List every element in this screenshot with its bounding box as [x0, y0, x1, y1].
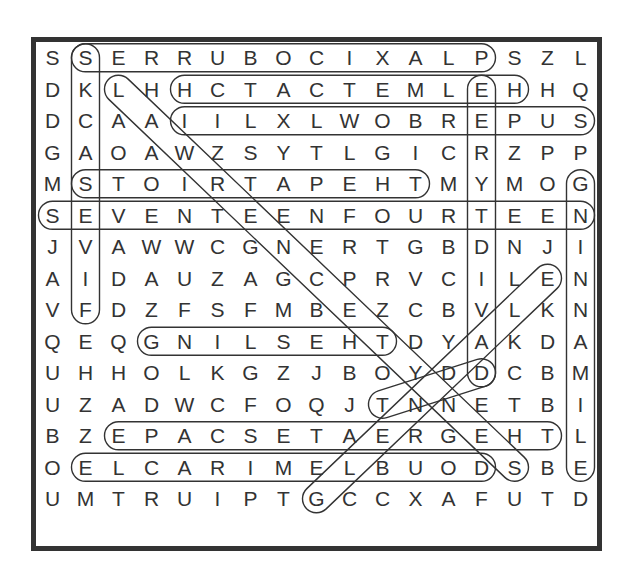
grid-cell[interactable]: L [432, 42, 465, 74]
grid-cell[interactable]: K [201, 357, 234, 389]
grid-cell[interactable]: G [300, 483, 333, 515]
grid-cell[interactable]: L [498, 294, 531, 326]
grid-cell[interactable]: H [102, 357, 135, 389]
grid-cell[interactable]: E [366, 420, 399, 452]
grid-cell[interactable]: J [333, 389, 366, 421]
grid-cell[interactable]: O [267, 42, 300, 74]
grid-cell[interactable]: R [465, 137, 498, 169]
grid-cell[interactable]: T [102, 168, 135, 200]
grid-cell[interactable]: Q [102, 326, 135, 358]
grid-cell[interactable]: P [300, 168, 333, 200]
grid-cell[interactable]: T [531, 483, 564, 515]
grid-cell[interactable]: N [300, 200, 333, 232]
grid-cell[interactable]: G [234, 357, 267, 389]
grid-cell[interactable]: S [267, 326, 300, 358]
grid-cell[interactable]: G [267, 263, 300, 295]
grid-cell[interactable]: G [234, 231, 267, 263]
grid-cell[interactable]: L [564, 42, 597, 74]
grid-cell[interactable]: Y [267, 137, 300, 169]
grid-cell[interactable]: F [465, 483, 498, 515]
grid-cell[interactable]: W [168, 137, 201, 169]
grid-cell[interactable]: L [234, 326, 267, 358]
grid-cell[interactable]: M [399, 74, 432, 106]
grid-cell[interactable]: O [102, 137, 135, 169]
grid-cell[interactable]: C [432, 137, 465, 169]
grid-cell[interactable]: E [267, 200, 300, 232]
grid-cell[interactable]: S [564, 105, 597, 137]
grid-cell[interactable]: L [564, 420, 597, 452]
grid-cell[interactable]: M [498, 168, 531, 200]
grid-cell[interactable]: B [531, 357, 564, 389]
grid-cell[interactable]: E [465, 105, 498, 137]
grid-cell[interactable]: E [135, 200, 168, 232]
grid-cell[interactable]: S [36, 200, 69, 232]
grid-cell[interactable]: V [465, 294, 498, 326]
grid-cell[interactable]: D [531, 326, 564, 358]
grid-cell[interactable]: K [498, 326, 531, 358]
grid-cell[interactable]: E [300, 326, 333, 358]
grid-cell[interactable]: U [36, 389, 69, 421]
grid-cell[interactable]: L [168, 357, 201, 389]
grid-cell[interactable]: C [366, 483, 399, 515]
grid-cell[interactable]: G [432, 420, 465, 452]
grid-cell[interactable]: Z [69, 420, 102, 452]
grid-cell[interactable]: L [234, 105, 267, 137]
grid-cell[interactable]: B [234, 42, 267, 74]
grid-cell[interactable]: B [36, 420, 69, 452]
grid-cell[interactable]: T [102, 483, 135, 515]
grid-cell[interactable]: L [102, 452, 135, 484]
grid-cell[interactable]: B [432, 231, 465, 263]
grid-cell[interactable]: E [300, 231, 333, 263]
grid-cell[interactable]: J [300, 357, 333, 389]
grid-cell[interactable]: K [69, 74, 102, 106]
grid-cell[interactable]: U [36, 357, 69, 389]
grid-cell[interactable]: M [564, 357, 597, 389]
grid-cell[interactable]: T [300, 137, 333, 169]
grid-cell[interactable]: E [69, 200, 102, 232]
grid-cell[interactable]: T [399, 168, 432, 200]
grid-cell[interactable]: B [300, 294, 333, 326]
grid-cell[interactable]: O [531, 168, 564, 200]
grid-cell[interactable]: X [267, 105, 300, 137]
grid-cell[interactable]: V [69, 231, 102, 263]
grid-cell[interactable]: U [531, 105, 564, 137]
grid-cell[interactable]: U [399, 452, 432, 484]
grid-cell[interactable]: W [168, 231, 201, 263]
grid-cell[interactable]: G [36, 137, 69, 169]
grid-cell[interactable]: A [135, 137, 168, 169]
grid-cell[interactable]: B [432, 294, 465, 326]
grid-cell[interactable]: T [366, 326, 399, 358]
grid-cell[interactable]: C [300, 74, 333, 106]
grid-cell[interactable]: D [36, 74, 69, 106]
grid-cell[interactable]: F [234, 294, 267, 326]
grid-cell[interactable]: P [564, 137, 597, 169]
grid-cell[interactable]: P [333, 263, 366, 295]
grid-cell[interactable]: E [465, 389, 498, 421]
grid-cell[interactable]: M [267, 294, 300, 326]
grid-cell[interactable]: L [333, 452, 366, 484]
grid-cell[interactable]: H [498, 420, 531, 452]
grid-cell[interactable]: Z [267, 357, 300, 389]
grid-cell[interactable]: A [168, 452, 201, 484]
grid-cell[interactable]: T [300, 420, 333, 452]
grid-cell[interactable]: R [333, 231, 366, 263]
grid-cell[interactable]: F [234, 389, 267, 421]
grid-cell[interactable]: A [36, 263, 69, 295]
grid-cell[interactable]: X [399, 483, 432, 515]
grid-cell[interactable]: G [366, 137, 399, 169]
grid-cell[interactable]: O [366, 200, 399, 232]
grid-cell[interactable]: D [36, 105, 69, 137]
grid-cell[interactable]: U [36, 483, 69, 515]
grid-cell[interactable]: D [399, 326, 432, 358]
grid-cell[interactable]: D [465, 357, 498, 389]
grid-cell[interactable]: H [333, 326, 366, 358]
grid-cell[interactable]: Q [564, 74, 597, 106]
grid-cell[interactable]: J [531, 231, 564, 263]
grid-cell[interactable]: E [102, 42, 135, 74]
grid-cell[interactable]: W [333, 105, 366, 137]
grid-cell[interactable]: I [201, 483, 234, 515]
grid-cell[interactable]: M [36, 168, 69, 200]
grid-cell[interactable]: R [432, 200, 465, 232]
grid-cell[interactable]: N [399, 389, 432, 421]
grid-cell[interactable]: A [135, 263, 168, 295]
